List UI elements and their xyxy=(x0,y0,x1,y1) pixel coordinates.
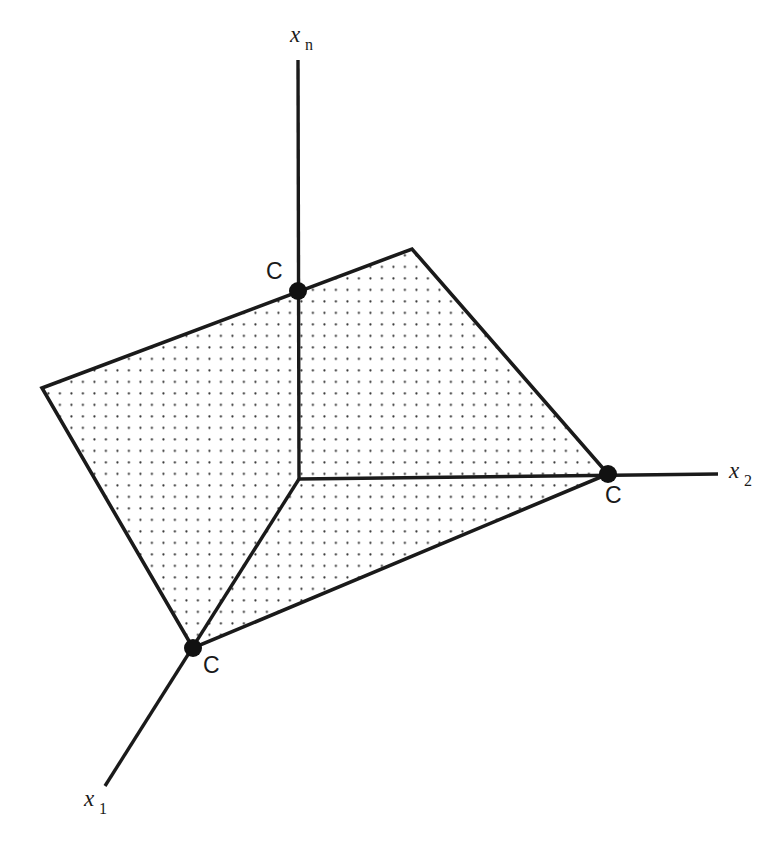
vertex-c-right-marker xyxy=(599,465,617,483)
x-2-axis-subscript: 2 xyxy=(744,472,752,489)
polytope-diagram: x n x 2 x 1 C C C xyxy=(0,0,779,841)
figure-root: x n x 2 x 1 C C C xyxy=(0,0,779,841)
x-1-axis-subscript: 1 xyxy=(99,800,107,817)
vertex-c-bottom-left-label: C xyxy=(203,652,220,678)
x-1-axis-label: x xyxy=(83,786,95,811)
vertex-c-top-label: C xyxy=(266,258,283,284)
vertex-c-bottom-left-marker xyxy=(184,639,202,657)
x-2-axis-label: x xyxy=(728,458,740,483)
x-n-axis-subscript: n xyxy=(305,36,313,53)
vertex-c-right-label: C xyxy=(605,482,622,508)
x-n-axis-label: x xyxy=(289,22,301,47)
x-n-axis-line xyxy=(298,60,299,479)
vertex-c-top-marker xyxy=(289,282,307,300)
